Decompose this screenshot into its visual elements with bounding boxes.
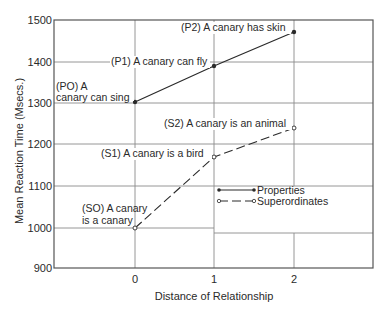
y-tick: 1000	[28, 222, 52, 234]
annotation-s1: (S1) A canary is a bird	[101, 147, 204, 159]
y-tick: 900	[34, 262, 52, 274]
open-circle-icon	[217, 199, 220, 202]
legend-label: Superordinates	[257, 195, 328, 207]
x-axis-label: Distance of Relationship	[155, 290, 274, 302]
y-tick: 1100	[28, 180, 52, 192]
data-point-p2	[292, 30, 296, 34]
filled-circle-icon	[217, 188, 221, 192]
x-tick: 1	[211, 273, 217, 285]
data-point-s2	[292, 126, 296, 130]
open-circle-icon	[252, 199, 255, 202]
y-axis-ticks: 1500 1400 1300 1200 1100 1000 900	[28, 14, 52, 274]
y-axis-label: Mean Reaction Time (Msecs.)	[13, 78, 25, 224]
annotation-s0: (SO) A canary	[82, 202, 148, 214]
annotation-p1: (P1) A canary can fly	[111, 55, 208, 67]
x-tick: 0	[132, 273, 138, 285]
annotation-s2: (S2) A canary is an animal	[164, 117, 286, 129]
annotation-p0: canary can sing	[56, 91, 130, 103]
filled-circle-icon	[252, 188, 256, 192]
annotation-p2: (P2) A canary has skin	[181, 21, 286, 33]
data-point-p1	[212, 64, 216, 68]
y-tick: 1400	[28, 56, 52, 68]
legend: Properties Superordinates	[215, 184, 372, 232]
y-tick: 1300	[28, 97, 52, 109]
annotation-s0: is a canary	[82, 214, 134, 226]
y-tick: 1200	[28, 138, 52, 150]
data-point-s0	[133, 226, 137, 230]
data-point-s1	[212, 155, 216, 159]
x-axis-ticks: 0 1 2	[132, 273, 297, 285]
y-tick: 1500	[28, 14, 52, 26]
x-tick: 2	[291, 273, 297, 285]
reaction-time-chart: 1500 1400 1300 1200 1100 1000 900 0 1 2 …	[0, 0, 391, 313]
